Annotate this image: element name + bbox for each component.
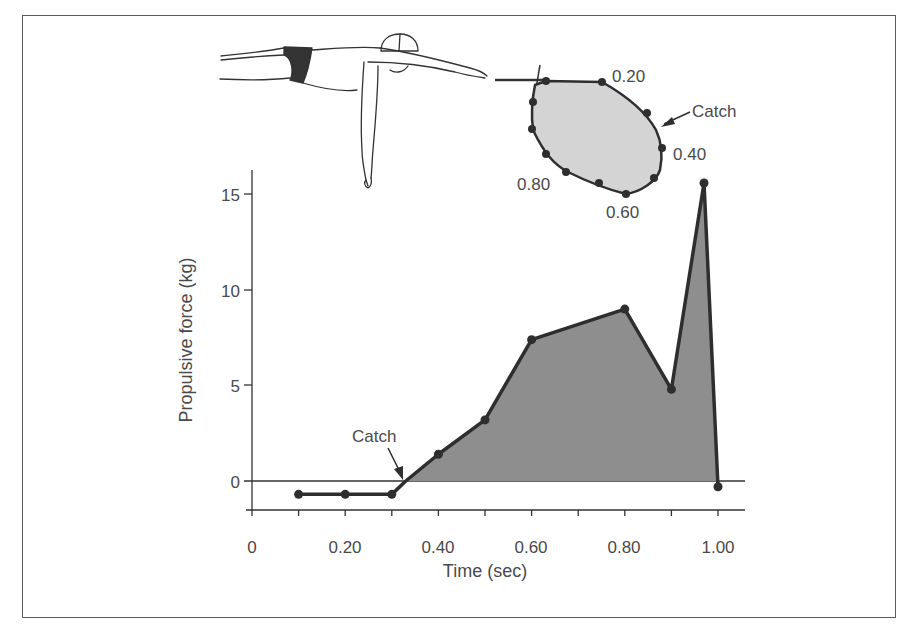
data-point-marker <box>527 335 536 344</box>
data-point-marker <box>434 450 443 459</box>
data-point-marker <box>387 490 396 499</box>
x-tick-label-060: 0.60 <box>514 538 547 557</box>
figure-canvas: 0.20 Catch 0.40 0.60 0.80 0 5 10 15 0 0.… <box>0 0 916 634</box>
x-tick-label-0: 0 <box>247 538 256 557</box>
inset-label-040: 0.40 <box>673 145 706 164</box>
force-area-fill <box>406 183 718 487</box>
x-axis-title: Time (sec) <box>443 561 527 581</box>
data-point-marker <box>341 490 350 499</box>
inset-label-020: 0.20 <box>612 67 645 86</box>
inset-label-060: 0.60 <box>606 203 639 222</box>
catch-arrow-icon <box>388 448 403 480</box>
x-tick-label-080: 0.80 <box>607 538 640 557</box>
y-axis-title: Propulsive force (kg) <box>176 257 196 422</box>
data-point-marker <box>700 179 709 188</box>
y-tick-label-10: 10 <box>221 282 240 301</box>
swimmer-illustration <box>220 34 487 188</box>
catch-annotation-label: Catch <box>352 427 396 446</box>
inset-label-080: 0.80 <box>517 175 550 194</box>
plot-area <box>294 179 722 499</box>
data-point-marker <box>714 482 723 491</box>
x-tick-label-040: 0.40 <box>421 538 454 557</box>
y-tick-label-15: 15 <box>221 186 240 205</box>
x-tick-label-100: 1.00 <box>701 538 734 557</box>
y-tick-label-5: 5 <box>231 377 240 396</box>
y-tick-label-0: 0 <box>231 473 240 492</box>
inset-label-catch: Catch <box>692 102 736 121</box>
x-tick-label-020: 0.20 <box>328 538 361 557</box>
data-point-marker <box>667 385 676 394</box>
data-point-marker <box>294 490 303 499</box>
data-point-marker <box>620 305 629 314</box>
data-point-marker <box>481 415 490 424</box>
